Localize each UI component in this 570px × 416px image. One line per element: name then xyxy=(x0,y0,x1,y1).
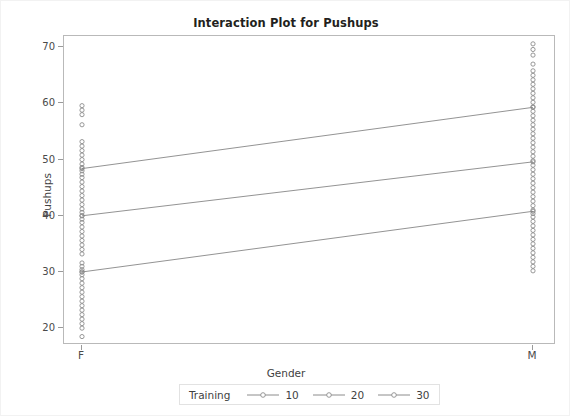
data-point xyxy=(531,91,535,95)
data-point xyxy=(80,229,84,233)
data-point xyxy=(531,127,535,131)
data-point xyxy=(80,238,84,242)
data-point-cloud-m xyxy=(531,42,535,273)
data-point xyxy=(80,189,84,193)
data-point xyxy=(531,82,535,86)
data-point xyxy=(531,62,535,66)
x-tick-label: F xyxy=(66,349,96,361)
data-point-cloud-f xyxy=(80,104,84,339)
data-point xyxy=(531,251,535,255)
data-point xyxy=(80,180,84,184)
data-point xyxy=(80,317,84,321)
data-point xyxy=(80,153,84,157)
data-point xyxy=(531,204,535,208)
data-point xyxy=(531,118,535,122)
data-point xyxy=(531,136,535,140)
series-line-20 xyxy=(80,160,535,218)
legend-item-10[interactable]: 10 xyxy=(246,389,298,401)
data-point xyxy=(80,193,84,197)
data-point xyxy=(80,313,84,317)
y-tick-label: 50 xyxy=(29,153,55,164)
data-point xyxy=(531,150,535,154)
plot-area xyxy=(63,35,555,344)
data-point xyxy=(531,237,535,241)
x-tick-mark xyxy=(81,345,82,350)
data-point xyxy=(531,168,535,172)
plot-svg xyxy=(64,36,556,345)
legend-swatch-icon xyxy=(312,390,346,400)
legend-label: 20 xyxy=(351,389,364,401)
data-point xyxy=(80,198,84,202)
data-point xyxy=(531,260,535,264)
data-point xyxy=(531,177,535,181)
data-point xyxy=(80,225,84,229)
interaction-line xyxy=(82,107,533,168)
y-tick-label: 40 xyxy=(29,209,55,220)
data-point xyxy=(80,308,84,312)
data-point xyxy=(531,264,535,268)
y-tick-label: 70 xyxy=(29,41,55,52)
series-line-10 xyxy=(80,209,535,274)
data-point xyxy=(531,195,535,199)
data-point xyxy=(531,100,535,104)
data-point xyxy=(80,295,84,299)
data-point xyxy=(80,286,84,290)
data-point xyxy=(80,322,84,326)
data-point xyxy=(531,246,535,250)
legend-swatch-icon xyxy=(377,390,411,400)
data-point xyxy=(531,186,535,190)
legend-title: Training xyxy=(189,389,230,401)
legend-label: 30 xyxy=(416,389,429,401)
data-point xyxy=(531,42,535,46)
data-point xyxy=(80,290,84,294)
data-point xyxy=(80,234,84,238)
data-point xyxy=(80,184,84,188)
data-point xyxy=(531,132,535,136)
data-point xyxy=(531,53,535,57)
data-point xyxy=(531,73,535,77)
legend-item-20[interactable]: 20 xyxy=(312,389,364,401)
data-point xyxy=(80,299,84,303)
data-point xyxy=(531,181,535,185)
legend-swatch-icon xyxy=(246,390,280,400)
data-point xyxy=(531,114,535,118)
data-point xyxy=(80,252,84,256)
interaction-line xyxy=(82,211,533,272)
data-point xyxy=(80,326,84,330)
data-point xyxy=(531,145,535,149)
data-point xyxy=(531,96,535,100)
legend-label: 10 xyxy=(285,389,298,401)
data-point xyxy=(531,219,535,223)
interaction-line xyxy=(82,162,533,216)
data-point xyxy=(80,334,84,338)
data-point xyxy=(531,47,535,51)
data-point xyxy=(531,228,535,232)
data-point xyxy=(531,78,535,82)
data-point xyxy=(531,172,535,176)
legend-entries: 102030 xyxy=(246,389,429,401)
data-point xyxy=(80,144,84,148)
data-point xyxy=(80,243,84,247)
data-point xyxy=(80,108,84,112)
data-point xyxy=(531,269,535,273)
data-point xyxy=(531,154,535,158)
chart-title: Interaction Plot for Pushups xyxy=(1,16,570,30)
x-axis-label: Gender xyxy=(1,367,570,379)
data-point xyxy=(531,141,535,145)
legend-item-30[interactable]: 30 xyxy=(377,389,429,401)
data-point xyxy=(531,69,535,73)
data-point xyxy=(531,255,535,259)
data-point xyxy=(80,113,84,117)
data-point xyxy=(80,140,84,144)
data-point xyxy=(80,202,84,206)
data-point xyxy=(531,87,535,91)
data-point xyxy=(531,233,535,237)
data-point xyxy=(531,123,535,127)
legend: Training 102030 xyxy=(179,384,440,405)
data-point xyxy=(80,149,84,153)
data-point xyxy=(80,304,84,308)
chart-container: Interaction Plot for Pushups Pushups 203… xyxy=(0,0,570,416)
x-tick-label: M xyxy=(517,349,547,361)
y-tick-label: 30 xyxy=(29,265,55,276)
data-point xyxy=(531,199,535,203)
